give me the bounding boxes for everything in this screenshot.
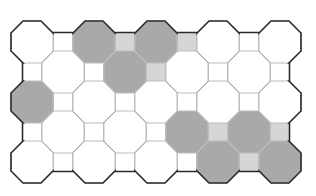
square-cell (178, 33, 197, 52)
square-cell (85, 63, 104, 82)
square-cell (240, 93, 259, 112)
octagon-cell (197, 81, 239, 123)
octagon-cell (166, 111, 208, 153)
square-cell (116, 153, 135, 172)
octagon-cell (166, 51, 208, 93)
square-cell (54, 33, 73, 52)
square-cell (54, 153, 73, 172)
square-cell (23, 63, 42, 82)
octagon-tiling-diagram (0, 0, 316, 196)
octagon-cell (228, 51, 270, 93)
square-cell (271, 63, 290, 82)
octagon-cell (104, 51, 146, 93)
octagon-cell (73, 81, 115, 123)
square-cell (147, 63, 166, 82)
octagon-cell (42, 111, 84, 153)
octagon-cell (228, 111, 270, 153)
octagon-cell (135, 81, 177, 123)
square-cell (209, 63, 228, 82)
square-cell (147, 123, 166, 142)
square-cell (116, 93, 135, 112)
octagon-cell (104, 111, 146, 153)
square-cell (178, 93, 197, 112)
octagon-cell (42, 51, 84, 93)
square-cell (209, 123, 228, 142)
square-cell (54, 93, 73, 112)
square-cell (178, 153, 197, 172)
square-cell (240, 33, 259, 52)
square-cell (85, 123, 104, 142)
square-cell (116, 33, 135, 52)
square-cell (240, 153, 259, 172)
square-cell (271, 123, 290, 142)
square-cell (23, 123, 42, 142)
